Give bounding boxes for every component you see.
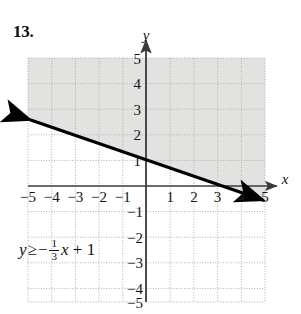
x-tick-label: 4	[238, 189, 246, 205]
inequality-expression: y≥−13x + 1	[19, 239, 95, 263]
y-tick-label: −5	[127, 295, 143, 311]
x-tick-label: −1	[115, 189, 131, 205]
coordinate-graph: −5 −4 −3 −2 −1 1 2 3 4 5 5 4 3 2 1 −1 −2…	[0, 0, 301, 314]
y-tick-label: −2	[127, 230, 143, 246]
inequality-relation: ≥	[28, 240, 37, 259]
inequality-minus-sign: −	[38, 240, 48, 259]
worksheet-page: 13.	[0, 0, 301, 314]
x-axis-label: x	[281, 171, 289, 187]
inequality-variable: x	[61, 240, 69, 259]
x-tick-label: −2	[91, 189, 107, 205]
fraction-denominator: 3	[49, 250, 59, 263]
y-tick-label: −3	[127, 255, 143, 271]
x-tick-label: 2	[190, 189, 198, 205]
inequality-plus-sign: +	[73, 240, 83, 259]
y-axis-label: y	[141, 27, 150, 43]
y-tick-label: 4	[134, 76, 142, 92]
x-tick-label: −5	[20, 189, 36, 205]
y-tick-label: 3	[134, 102, 142, 118]
y-tick-label: −1	[127, 204, 143, 220]
y-tick-label: 2	[134, 127, 142, 143]
fraction-one-third: 13	[49, 238, 59, 262]
x-tick-label: −4	[44, 189, 60, 205]
x-tick-label: 5	[261, 189, 269, 205]
y-tick-label: 5	[134, 51, 142, 67]
fraction-numerator: 1	[49, 238, 59, 250]
inequality-lhs: y	[19, 240, 27, 259]
x-tick-label: 3	[214, 189, 222, 205]
x-tick-labels: −5 −4 −3 −2 −1 1 2 3 4 5	[20, 189, 269, 205]
x-tick-label: −3	[67, 189, 83, 205]
x-tick-label: 1	[166, 189, 174, 205]
inequality-constant: 1	[87, 240, 96, 259]
y-tick-label: 1	[134, 153, 142, 169]
